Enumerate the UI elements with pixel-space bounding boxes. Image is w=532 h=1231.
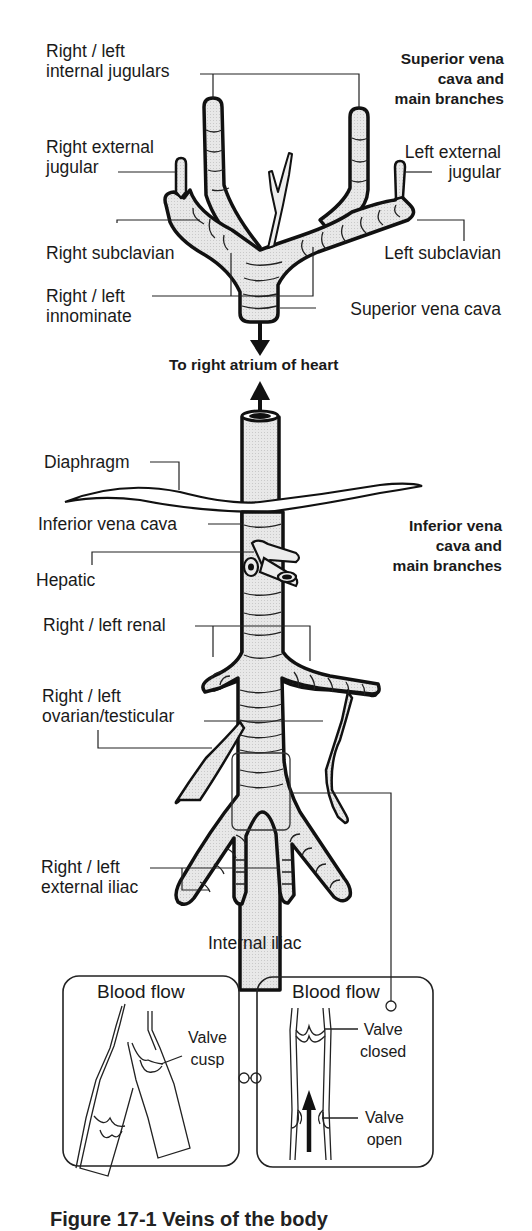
inset-right-title: Blood flow <box>292 981 380 1003</box>
label-left-subclavian: Left subclavian <box>384 243 501 263</box>
heading-line: main branches <box>393 556 502 576</box>
label-external-iliac: Right / left external iliac <box>41 857 138 897</box>
label-line: internal jugulars <box>46 61 170 81</box>
inset-right-vein-illustration <box>290 1008 358 1160</box>
label-internal-iliac: Internal iliac <box>208 933 301 953</box>
inferior-section-heading: Inferior vena cava and main branches <box>393 516 502 576</box>
left-gonadal-vein <box>326 692 352 823</box>
label-valve-open: Valve open <box>365 1107 404 1151</box>
label-line: Valve <box>188 1027 227 1049</box>
inset-right-box <box>257 977 433 1167</box>
inset-left-box <box>63 976 239 1166</box>
label-valve-closed: Valve closed <box>360 1019 406 1063</box>
superior-section-heading: Superior vena cava and main branches <box>395 49 504 109</box>
label-line: cusp <box>188 1049 227 1071</box>
label-line: innominate <box>46 306 132 326</box>
label-superior-vena-cava: Superior vena cava <box>350 299 501 319</box>
figure-caption-cropped: Figure 17-1 Veins of the body <box>50 1208 328 1231</box>
heading-line: cava and <box>395 69 504 89</box>
superior-vena-cava-illustration <box>165 98 414 322</box>
label-to-right-atrium: To right atrium of heart <box>169 356 338 374</box>
label-line: Valve <box>360 1019 406 1041</box>
label-line: Left external <box>405 142 501 162</box>
label-line: open <box>365 1129 404 1151</box>
label-line: Right / left <box>46 41 170 61</box>
blood-flow-arrow-icon <box>302 1090 316 1152</box>
label-line: ovarian/testicular <box>42 706 174 726</box>
right-gonadal-vein <box>176 722 244 803</box>
label-internal-jugulars: Right / left internal jugulars <box>46 41 170 81</box>
label-right-subclavian: Right subclavian <box>46 243 174 263</box>
leader-lines-superior <box>117 74 464 308</box>
heading-line: Inferior vena <box>393 516 502 536</box>
label-line: Right external <box>46 137 154 157</box>
label-valve-cusp: Valve cusp <box>188 1027 227 1071</box>
label-line: jugular <box>405 162 501 182</box>
heading-line: Superior vena <box>395 49 504 69</box>
inset-left-vein-illustration <box>76 1004 190 1176</box>
arrow-up-icon <box>250 381 270 412</box>
label-renal: Right / left renal <box>43 615 166 635</box>
label-line: Right / left <box>41 857 138 877</box>
label-line: Valve <box>365 1107 404 1129</box>
label-line: Right / left <box>42 686 174 706</box>
label-hepatic: Hepatic <box>36 570 95 590</box>
label-line: Right / left <box>46 286 132 306</box>
label-inferior-vena-cava: Inferior vena cava <box>38 514 177 534</box>
heading-line: main branches <box>395 89 504 109</box>
label-diaphragm: Diaphragm <box>44 452 130 472</box>
heading-line: cava and <box>393 536 502 556</box>
label-left-external-jugular: Left external jugular <box>405 142 501 182</box>
label-line: jugular <box>46 157 154 177</box>
label-right-external-jugular: Right external jugular <box>46 137 154 177</box>
label-line: closed <box>360 1041 406 1063</box>
inset-left-title: Blood flow <box>97 981 185 1003</box>
label-ovarian-testicular: Right / left ovarian/testicular <box>42 686 174 726</box>
label-line: external iliac <box>41 877 138 897</box>
arrow-down-icon <box>250 322 270 356</box>
label-innominate: Right / left innominate <box>46 286 132 326</box>
